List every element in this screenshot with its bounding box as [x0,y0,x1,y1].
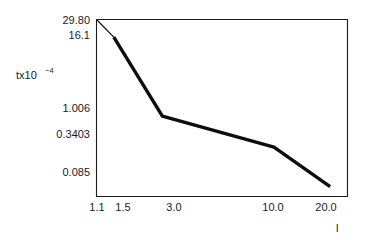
y-axis-title: tx10 [16,69,37,81]
y-tick-label-0: 29.80 [62,14,90,26]
x-tick-label-0: 1.1 [89,201,104,213]
y-tick-label-1: 16.1 [69,29,90,41]
x-tick-label-3: 10.0 [262,201,283,213]
data-line-leading-segment [97,20,114,38]
y-tick-label-2: 1.006 [62,102,90,114]
data-line [114,37,330,187]
y-tick-label-4: 0.085 [62,166,90,178]
plot-frame [97,20,348,197]
line-chart: 29.80 16.1 1.006 0.3403 0.085 tx10 −4 1.… [0,0,370,240]
x-tick-label-4: 20.0 [315,201,336,213]
x-tick-label-2: 3.0 [166,201,181,213]
x-axis-title: l [336,222,338,234]
y-axis-title-exponent: −4 [45,66,54,75]
x-tick-label-1: 1.5 [115,201,130,213]
y-tick-label-3: 0.3403 [56,128,90,140]
